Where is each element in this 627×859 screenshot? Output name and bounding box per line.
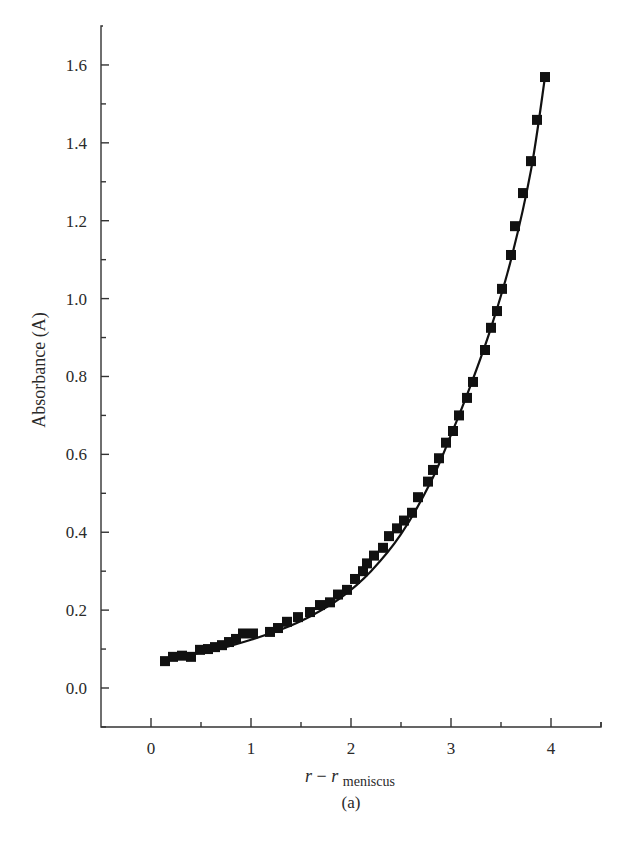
figure-caption: (a) — [342, 793, 361, 812]
y-tick-label: 1.4 — [66, 134, 88, 153]
data-point-marker — [315, 600, 325, 610]
x-tick-label: 0 — [147, 739, 156, 758]
data-point-marker — [407, 508, 417, 518]
data-point-marker — [532, 115, 542, 125]
data-point-marker — [480, 345, 490, 355]
data-point-marker — [168, 652, 178, 662]
data-point-marker — [540, 72, 550, 82]
data-point-marker — [526, 156, 536, 166]
data-point-marker — [369, 551, 379, 561]
y-tick-label: 1.2 — [66, 212, 87, 231]
y-tick-label: 0.2 — [66, 601, 87, 620]
x-tick-label: 4 — [547, 739, 556, 758]
axes — [101, 26, 601, 727]
data-point-marker — [454, 410, 464, 420]
y-axis-ticks: 0.00.20.40.60.81.01.21.41.6 — [66, 56, 109, 727]
data-point-marker — [434, 453, 444, 463]
y-axis-label: Absorbance (A) — [29, 312, 50, 427]
y-tick-label: 0.6 — [66, 445, 87, 464]
data-point-marker — [186, 652, 196, 662]
y-tick-label: 1.6 — [66, 56, 87, 75]
x-axis-label: r − r meniscus — [305, 766, 395, 789]
fit-curve — [165, 77, 545, 660]
data-point-marker — [492, 306, 502, 316]
data-point-marker — [305, 607, 315, 617]
y-tick-label: 0.0 — [66, 679, 87, 698]
y-tick-label: 1.0 — [66, 290, 87, 309]
data-point-marker — [497, 284, 507, 294]
data-point-marker — [428, 465, 438, 475]
data-point-marker — [510, 221, 520, 231]
data-point-marker — [448, 426, 458, 436]
data-point-marker — [506, 250, 516, 260]
data-point-marker — [248, 628, 258, 638]
x-axis-label-r: r — [305, 766, 313, 786]
data-point-marker — [441, 438, 451, 448]
data-point-marker — [177, 651, 187, 661]
x-tick-label: 1 — [247, 739, 256, 758]
x-tick-label: 2 — [347, 739, 356, 758]
x-tick-label: 3 — [447, 739, 456, 758]
data-point-marker — [486, 323, 496, 333]
data-point-marker — [273, 623, 283, 633]
data-point-marker — [413, 492, 423, 502]
data-point-marker — [282, 617, 292, 627]
x-axis-ticks: 01234 — [147, 718, 601, 758]
data-point-marker — [468, 377, 478, 387]
x-axis-label-subscript: meniscus — [343, 774, 395, 789]
axis-frame — [101, 26, 601, 727]
data-point-marker — [293, 612, 303, 622]
data-point-marker — [378, 543, 388, 553]
data-markers — [160, 72, 550, 666]
y-tick-label: 0.8 — [66, 367, 87, 386]
data-point-marker — [333, 590, 343, 600]
x-axis-label-r2: r — [331, 766, 339, 786]
data-point-marker — [342, 585, 352, 595]
y-tick-label: 0.4 — [66, 523, 88, 542]
data-point-marker — [423, 477, 433, 487]
data-point-marker — [238, 628, 248, 638]
data-point-marker — [462, 393, 472, 403]
x-axis-label-minus: − — [317, 766, 332, 786]
chart: 0.00.20.40.60.81.01.21.41.6 01234 Absorb… — [0, 0, 627, 859]
data-point-marker — [518, 188, 528, 198]
